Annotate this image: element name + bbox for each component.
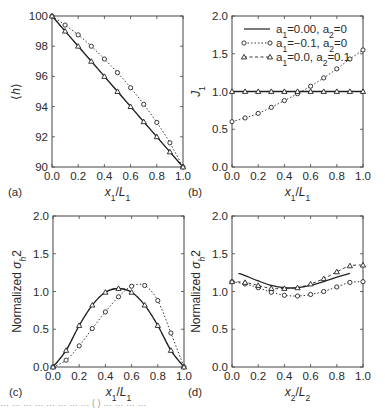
plot-frame — [53, 216, 184, 367]
circle-marker-icon — [64, 358, 68, 362]
x-tick-label: 0.6 — [123, 170, 139, 182]
y-tick-label: 1.0 — [212, 86, 228, 98]
circle-marker-icon — [335, 67, 339, 71]
series-group — [232, 265, 363, 296]
triangle-marker-icon — [308, 281, 313, 286]
x-tick-label: 0.8 — [329, 170, 345, 182]
y-tick-label: 98 — [35, 40, 48, 52]
circle-marker-icon — [295, 294, 299, 298]
x-tick-label: 1.0 — [175, 170, 191, 182]
x-tick-label: 0.8 — [149, 170, 165, 182]
circle-marker-icon — [115, 71, 119, 75]
y-axis-label: Normalized σh2 — [10, 250, 28, 333]
y-tick-label: 1.5 — [212, 48, 228, 60]
triangle-marker-icon — [321, 276, 326, 281]
circle-marker-icon — [282, 98, 286, 102]
x-tick-label: 0.2 — [250, 370, 266, 382]
circle-marker-icon — [243, 116, 247, 120]
y-tick-label: 0.0 — [212, 361, 228, 373]
circle-marker-icon — [361, 48, 365, 52]
panel-a-mean-head-chart: 0.00.20.40.60.81.09092949698100x1/L1(a)⟨… — [8, 10, 191, 203]
legend-entry-label: a1=0.0, a2=0.1 — [276, 51, 350, 68]
series-line — [239, 273, 350, 288]
circle-marker-icon — [63, 23, 67, 27]
circle-marker-icon — [168, 141, 172, 145]
y-tick-label: 1.0 — [33, 286, 49, 298]
circle-marker-icon — [309, 292, 313, 296]
circle-marker-icon — [130, 284, 134, 288]
plot-frame — [232, 216, 363, 367]
circle-marker-icon — [143, 283, 147, 287]
x-tick-label: 0.6 — [124, 370, 140, 382]
circle-marker-icon — [102, 57, 106, 61]
y-tick-label: 1.5 — [212, 248, 228, 260]
circle-marker-icon — [77, 344, 81, 348]
y-tick-label: 90 — [35, 161, 48, 173]
circle-marker-icon — [256, 111, 260, 115]
y-tick-label: 0.5 — [212, 123, 228, 135]
y-tick-label: 0.5 — [212, 323, 228, 335]
circle-marker-icon — [156, 298, 160, 302]
x-tick-label: 0.4 — [97, 370, 114, 382]
circle-marker-icon — [103, 310, 107, 314]
circle-marker-icon — [169, 331, 173, 335]
svg-text:Normalized σh2: Normalized σh2 — [189, 250, 207, 333]
y-tick-label: 96 — [35, 70, 48, 82]
legend: a1=0.00, a2=0a1=−0.1, a2=0a1=0.0, a2=0.1 — [241, 23, 350, 68]
x-tick-label: 0.8 — [150, 370, 166, 382]
y-axis-label: J1 — [189, 86, 207, 98]
y-axis-label: ⟨h⟩ — [9, 83, 23, 100]
x-tick-label: 0.4 — [276, 370, 293, 382]
panel-label: (d) — [188, 386, 202, 398]
circle-marker-icon — [129, 86, 133, 90]
circle-marker-icon — [268, 41, 272, 45]
x-tick-label: 0.8 — [329, 370, 345, 382]
figure-four-panels: 0.00.20.40.60.81.09092949698100x1/L1(a)⟨… — [0, 0, 385, 408]
x-tick-label: 0.2 — [71, 370, 87, 382]
x-axis-label: x1/L1 — [104, 185, 131, 203]
panel-label: (b) — [188, 186, 202, 198]
x-tick-label: 0.6 — [303, 370, 319, 382]
x-tick-label: 1.0 — [355, 170, 371, 182]
circle-marker-icon — [155, 120, 159, 124]
svg-text:Normalized σh2: Normalized σh2 — [10, 250, 28, 333]
y-tick-label: 0.0 — [212, 161, 228, 173]
circle-marker-icon — [90, 326, 94, 330]
circle-marker-icon — [269, 105, 273, 109]
y-axis-label: Normalized σh2 — [189, 250, 207, 333]
y-tick-label: 0.0 — [33, 361, 49, 373]
svg-text:J1: J1 — [189, 86, 207, 98]
x-tick-label: 0.2 — [250, 170, 266, 182]
x-axis-label: x1/L1 — [284, 185, 311, 203]
circle-marker-icon — [142, 102, 146, 106]
panel-c-variance-x1-chart: 0.00.20.40.60.81.00.00.51.01.52.0x1/L1(c… — [9, 210, 192, 403]
svg-text:⟨h⟩: ⟨h⟩ — [9, 83, 23, 100]
y-tick-label: 2.0 — [212, 10, 228, 22]
caption-fragment: … … … … … … … … ( ) … … … … — [0, 398, 385, 408]
x-tick-label: 0.4 — [96, 170, 113, 182]
y-tick-label: 94 — [35, 101, 48, 113]
x-tick-label: 1.0 — [176, 370, 192, 382]
circle-marker-icon — [116, 295, 120, 299]
y-tick-label: 2.0 — [212, 210, 228, 222]
y-tick-label: 92 — [35, 131, 48, 143]
y-tick-label: 1.5 — [33, 248, 49, 260]
circle-marker-icon — [282, 293, 286, 297]
series-line — [53, 288, 184, 367]
circle-marker-icon — [230, 120, 234, 124]
panel-label: (a) — [8, 186, 22, 198]
y-tick-label: 0.5 — [33, 323, 49, 335]
y-tick-label: 2.0 — [33, 210, 49, 222]
circle-marker-icon — [89, 44, 93, 48]
y-tick-label: 1.0 — [212, 286, 228, 298]
circle-marker-icon — [322, 289, 326, 293]
x-tick-label: 1.0 — [355, 370, 371, 382]
circle-marker-icon — [76, 33, 80, 37]
circle-marker-icon — [242, 41, 246, 45]
series-line — [53, 288, 184, 367]
x-tick-label: 0.2 — [70, 170, 86, 182]
panel-label: (c) — [9, 386, 23, 398]
triangle-marker-icon — [334, 269, 339, 274]
panel-d-variance-x2-chart: 0.00.20.40.60.81.00.00.51.01.52.0x2/L2(d… — [188, 210, 371, 403]
y-tick-label: 100 — [29, 10, 48, 22]
